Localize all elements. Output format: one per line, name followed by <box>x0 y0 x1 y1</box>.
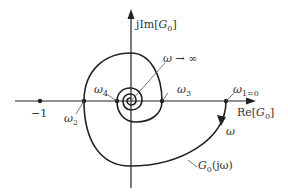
imag-axis-arrow-icon <box>128 9 135 19</box>
omega3-leader <box>162 93 168 101</box>
minus-one-label: −1 <box>31 108 47 119</box>
nyquist-curve <box>84 53 226 166</box>
direction-arrow-icon <box>217 115 226 126</box>
omega-infinity-label: ω → ∞ <box>163 53 197 64</box>
omega1-label: ω1=0 <box>233 84 259 98</box>
real-axis-arrow-icon <box>246 98 256 105</box>
real-axis-label: Re[G0] <box>237 107 274 121</box>
curve-label: G0(jω) <box>198 160 233 174</box>
imag-axis-label: jIm[G0] <box>136 19 177 33</box>
minus-one-point <box>38 99 42 103</box>
nyquist-diagram: jIm[G0] Re[G0] −1 ω2 ω4 ω3 ω1=0 ω → ∞ ω … <box>0 0 288 196</box>
omega4-leader <box>108 95 117 101</box>
omega4-label: ω4 <box>94 84 108 98</box>
omega2-label: ω2 <box>64 113 78 127</box>
curve-label-leader <box>188 160 197 167</box>
omega3-label: ω3 <box>177 84 191 98</box>
direction-label: ω <box>226 126 235 137</box>
